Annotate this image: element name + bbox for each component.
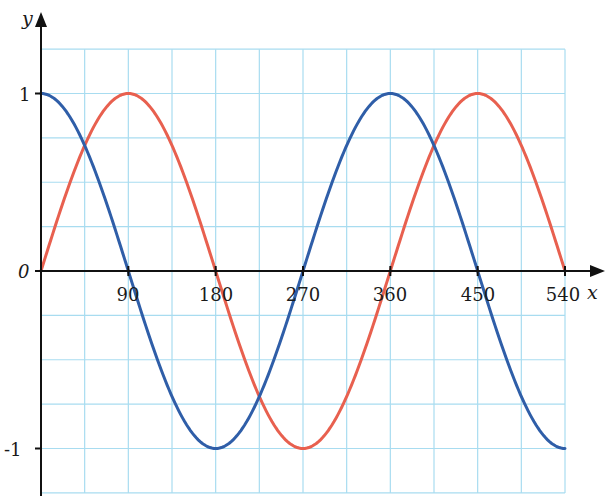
axes xyxy=(35,12,605,496)
x-tick-label-180: 180 xyxy=(199,284,233,305)
axis-labels: y x 0 1 -1 90 180 270 360 450 540 xyxy=(4,7,598,460)
y-axis-arrow-icon xyxy=(35,12,47,27)
x-axis-label: x xyxy=(587,281,598,303)
origin-label: 0 xyxy=(18,261,29,282)
x-tick-label-540: 540 xyxy=(546,284,580,305)
x-tick-label-450: 450 xyxy=(461,284,495,305)
x-axis-arrow-icon xyxy=(590,265,605,277)
chart-container: y x 0 1 -1 90 180 270 360 450 540 xyxy=(0,0,607,500)
y-tick-label-minus-1: -1 xyxy=(4,439,22,460)
x-tick-label-360: 360 xyxy=(373,284,407,305)
x-tick-label-270: 270 xyxy=(286,284,320,305)
sin-cos-chart: y x 0 1 -1 90 180 270 360 450 540 xyxy=(0,0,607,500)
y-axis-label: y xyxy=(21,7,33,29)
x-tick-label-90: 90 xyxy=(117,284,140,305)
y-tick-label-1: 1 xyxy=(19,84,30,105)
